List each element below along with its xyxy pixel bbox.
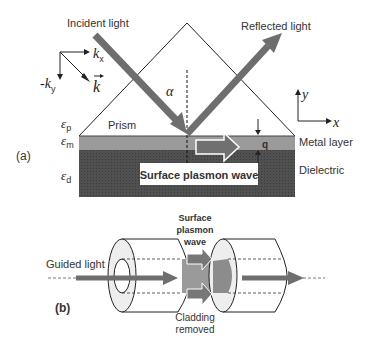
kx-label: kx bbox=[93, 46, 104, 64]
figure: Surface plasmon wave q Incident light Re… bbox=[0, 0, 369, 346]
k-vector-axes-icon bbox=[57, 49, 90, 82]
incident-light-label: Incident light bbox=[67, 17, 129, 29]
reflected-arrow-icon bbox=[187, 33, 282, 134]
y-axis-label: y bbox=[300, 87, 309, 102]
ky-label: -ky bbox=[40, 76, 56, 94]
eps-m-label: εm bbox=[61, 133, 74, 150]
panel-b-label: (b) bbox=[55, 301, 70, 315]
guided-light-label: Guided light bbox=[46, 258, 105, 270]
prism-label: Prism bbox=[108, 119, 136, 131]
cladding-label-2: removed bbox=[176, 324, 215, 335]
dielectric-label: Dielectric bbox=[299, 164, 345, 176]
q-label: q bbox=[262, 139, 268, 150]
spw-label-b-1: Surface bbox=[178, 213, 211, 223]
eps-p-label: εp bbox=[61, 116, 71, 133]
eps-d-label: εd bbox=[61, 168, 71, 185]
xy-axes-icon bbox=[295, 89, 332, 124]
alpha-label: α bbox=[166, 84, 174, 99]
spw-label-b-3: wave bbox=[183, 237, 206, 247]
reflected-light-label: Reflected light bbox=[241, 20, 311, 32]
x-axis-label: x bbox=[332, 115, 340, 130]
panel-a-label: (a) bbox=[16, 149, 31, 163]
spw-label-b-2: plasmon bbox=[176, 225, 213, 235]
spw-label: Surface plasmon wave bbox=[140, 169, 259, 181]
cladding-label-1: Cladding bbox=[175, 312, 214, 323]
k-vector-label: k bbox=[93, 78, 101, 95]
metal-layer-label: Metal layer bbox=[299, 136, 353, 148]
